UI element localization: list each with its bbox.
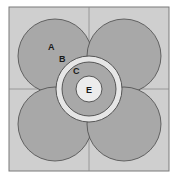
label-A: A [48,42,55,52]
label-B: B [59,54,66,64]
label-C: C [73,66,80,76]
label-E: E [86,85,92,95]
diagram-canvas: A B C E [0,0,172,177]
